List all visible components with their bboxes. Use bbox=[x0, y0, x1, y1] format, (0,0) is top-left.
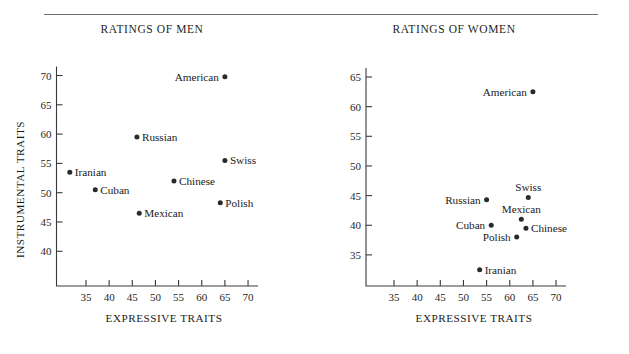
x-tick-label: 55 bbox=[173, 291, 185, 303]
scatter-point-label: Swiss bbox=[230, 154, 256, 166]
scatter-point-label: Swiss bbox=[515, 181, 541, 193]
x-axis-title-men: EXPRESSIVE TRAITS bbox=[14, 312, 314, 324]
x-tick-label: 55 bbox=[481, 291, 493, 303]
y-tick-label: 55 bbox=[41, 157, 53, 169]
scatter-point bbox=[222, 158, 227, 163]
x-tick-label: 40 bbox=[104, 291, 116, 303]
scatter-point-label: Russian bbox=[142, 131, 178, 143]
y-tick-label: 60 bbox=[41, 128, 53, 140]
scatter-point-label: Chinese bbox=[179, 175, 215, 187]
scatter-point bbox=[530, 89, 535, 94]
scatter-point-label: American bbox=[483, 86, 528, 98]
y-axis-title-men: INSTRUMENTAL TRAITS bbox=[14, 121, 26, 258]
y-tick-label: 40 bbox=[41, 245, 53, 257]
y-tick-label: 65 bbox=[350, 71, 362, 83]
scatter-point-label: Mexican bbox=[502, 203, 542, 215]
x-tick-label: 65 bbox=[527, 291, 539, 303]
scatter-point bbox=[484, 197, 489, 202]
scatter-point bbox=[93, 187, 98, 192]
scatter-point bbox=[134, 135, 139, 140]
x-tick-label: 70 bbox=[551, 291, 563, 303]
x-tick-label: 50 bbox=[150, 291, 162, 303]
scatter-point-label: Iranian bbox=[485, 264, 517, 276]
scatter-point bbox=[514, 235, 519, 240]
scatter-point bbox=[137, 211, 142, 216]
scatter-point bbox=[218, 200, 223, 205]
panel-ratings-of-women: RATINGS OF WOMEN 35404550556065354045505… bbox=[310, 0, 610, 354]
y-tick-label: 50 bbox=[41, 187, 53, 199]
x-tick-label: 70 bbox=[243, 291, 255, 303]
y-tick-label: 55 bbox=[350, 130, 362, 142]
x-tick-label: 50 bbox=[458, 291, 470, 303]
x-tick-label: 35 bbox=[81, 291, 93, 303]
scatter-point-label: Cuban bbox=[100, 184, 130, 196]
cut-off-caption bbox=[62, 340, 562, 352]
y-tick-label: 50 bbox=[350, 160, 362, 172]
scatter-point bbox=[222, 74, 227, 79]
y-tick-label: 60 bbox=[350, 101, 362, 113]
scatter-plot-men: 404550556065703540455055606570AmericanRu… bbox=[0, 0, 300, 354]
scatter-point bbox=[523, 226, 528, 231]
x-tick-label: 45 bbox=[127, 291, 139, 303]
y-tick-label: 70 bbox=[41, 70, 53, 82]
scatter-point bbox=[519, 217, 524, 222]
x-axis-title-women: EXPRESSIVE TRAITS bbox=[324, 312, 624, 324]
scatter-point-label: Cuban bbox=[456, 219, 486, 231]
figure-two-scatter-panels: RATINGS OF MEN 4045505560657035404550556… bbox=[0, 0, 629, 354]
scatter-point bbox=[171, 178, 176, 183]
scatter-point-label: Chinese bbox=[531, 222, 567, 234]
x-tick-label: 40 bbox=[412, 291, 424, 303]
y-tick-label: 35 bbox=[350, 249, 362, 261]
y-tick-label: 65 bbox=[41, 99, 53, 111]
scatter-point-label: Russian bbox=[445, 194, 481, 206]
panel-ratings-of-men: RATINGS OF MEN 4045505560657035404550556… bbox=[0, 0, 300, 354]
x-tick-label: 45 bbox=[435, 291, 447, 303]
y-tick-label: 40 bbox=[350, 219, 362, 231]
x-tick-label: 35 bbox=[389, 291, 401, 303]
scatter-point bbox=[67, 170, 72, 175]
scatter-point-label: Polish bbox=[225, 197, 253, 209]
scatter-point-label: American bbox=[175, 71, 220, 83]
x-tick-label: 60 bbox=[504, 291, 516, 303]
scatter-point-label: Mexican bbox=[144, 207, 184, 219]
x-tick-label: 60 bbox=[196, 291, 208, 303]
scatter-point bbox=[477, 267, 482, 272]
scatter-point-label: Polish bbox=[483, 231, 511, 243]
x-tick-label: 65 bbox=[219, 291, 231, 303]
scatter-plot-women: 354045505560653540455055606570AmericanSw… bbox=[310, 0, 610, 354]
scatter-point bbox=[489, 223, 494, 228]
scatter-point-label: Iranian bbox=[75, 166, 107, 178]
y-tick-label: 45 bbox=[41, 216, 53, 228]
y-tick-label: 45 bbox=[350, 190, 362, 202]
scatter-point bbox=[526, 195, 531, 200]
